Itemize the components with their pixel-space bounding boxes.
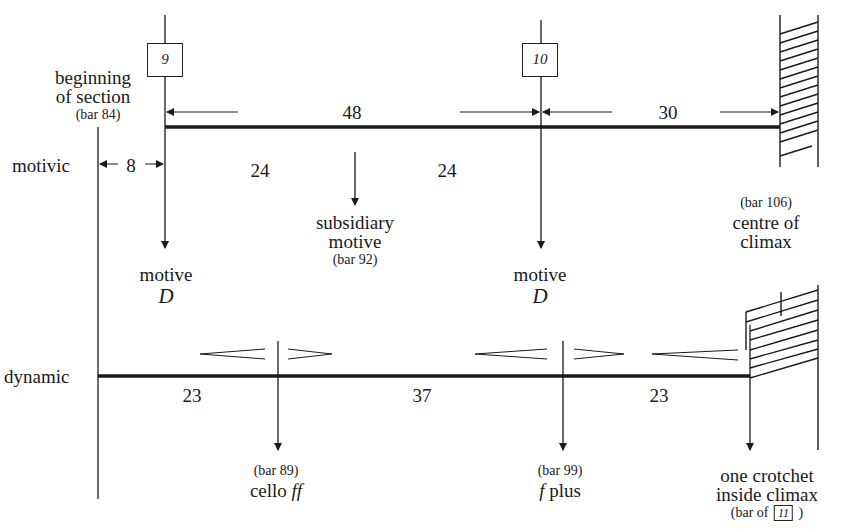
span-23-left: 23 <box>183 386 202 405</box>
rehearsal-mark-11: 11 <box>774 505 793 521</box>
span-37: 37 <box>413 386 432 405</box>
span-24-right: 24 <box>438 161 457 180</box>
fplus-text: plus <box>549 480 581 501</box>
span-48: 48 <box>343 103 362 122</box>
beginning-bar: (bar 84) <box>76 108 121 122</box>
crotchet-bar: (bar of 11 ) <box>731 505 803 521</box>
crotchet-label-2: inside climax <box>716 485 818 504</box>
subsidiary-label-2: motive <box>329 232 382 251</box>
climax-label-2: climax <box>740 232 792 251</box>
motive-2-label: motive <box>514 265 567 284</box>
subsidiary-bar: (bar 92) <box>333 253 378 267</box>
subsidiary-label-1: subsidiary <box>316 213 394 232</box>
row-label-dynamic: dynamic <box>4 367 69 386</box>
motive-1-label: motive <box>140 265 193 284</box>
climax-hatch-top <box>780 15 818 167</box>
fplus-dynamic: f <box>539 480 544 501</box>
rehearsal-mark-10: 10 <box>522 43 558 77</box>
beginning-label-2: of section <box>56 87 130 106</box>
row-label-motivic: motivic <box>12 156 70 175</box>
cello-text: cello <box>250 480 287 501</box>
motive-1-letter: D <box>158 286 173 307</box>
climax-label-1: centre of <box>733 213 800 232</box>
span-30: 30 <box>659 103 678 122</box>
climax-bar: (bar 106) <box>740 196 792 210</box>
span-8: 8 <box>126 156 136 175</box>
crotchet-bar-suffix: ) <box>799 505 804 520</box>
span-24-left: 24 <box>251 161 270 180</box>
cello-dynamic: ff <box>292 480 303 501</box>
rehearsal-mark-9: 9 <box>147 43 183 77</box>
motive-2-letter: D <box>532 286 547 307</box>
fplus-label: f plus <box>539 481 581 500</box>
beginning-label-1: beginning <box>55 68 131 87</box>
cello-bar: (bar 89) <box>254 464 299 478</box>
span-23-right: 23 <box>650 386 669 405</box>
climax-hatch-bottom <box>746 285 818 450</box>
crotchet-bar-prefix: (bar of <box>731 505 769 520</box>
cello-label: cello ff <box>250 481 302 500</box>
proportion-diagram: 9 10 beginning of section (bar 84) motiv… <box>0 0 846 529</box>
hairpins <box>200 349 738 360</box>
crotchet-label-1: one crotchet <box>720 466 813 485</box>
fplus-bar: (bar 99) <box>538 464 583 478</box>
